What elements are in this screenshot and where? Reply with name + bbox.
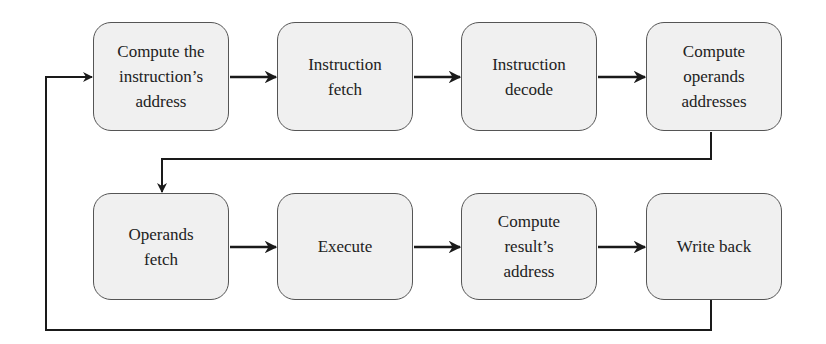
step-label: Compute operands addresses xyxy=(681,39,746,114)
step-label: Instruction fetch xyxy=(308,52,382,102)
step-label: Execute xyxy=(318,234,373,259)
step-operands-fetch: Operands fetch xyxy=(93,193,229,300)
step-label: Operands fetch xyxy=(128,222,193,272)
step-label: Instruction decode xyxy=(492,52,566,102)
step-instruction-decode: Instruction decode xyxy=(461,22,597,131)
step-execute: Execute xyxy=(277,193,413,300)
step-label: Compute result’s address xyxy=(498,209,560,284)
step-label: Write back xyxy=(677,234,751,259)
arrow-4-5 xyxy=(162,132,711,192)
step-write-back: Write back xyxy=(646,193,782,300)
step-compute-result-address: Compute result’s address xyxy=(461,193,597,300)
step-instruction-fetch: Instruction fetch xyxy=(277,22,413,131)
step-label: Compute the instruction’s address xyxy=(117,39,204,114)
step-compute-operands-addresses: Compute operands addresses xyxy=(646,22,782,131)
step-compute-instruction-address: Compute the instruction’s address xyxy=(93,22,229,131)
